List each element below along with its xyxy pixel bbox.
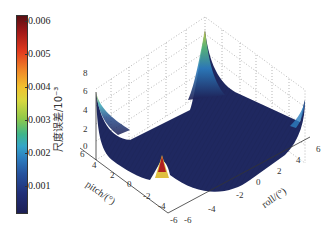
pitch-tick: 2 [110, 171, 115, 180]
z-tick: 2 [83, 125, 88, 134]
roll-tick: 6 [316, 145, 321, 154]
z-tick: 8 [83, 69, 88, 78]
roll-tick: 4 [296, 156, 301, 165]
roll-tick: 2 [277, 167, 282, 176]
pitch-tick: -6 [170, 216, 178, 225]
z-tick: 6 [83, 87, 88, 96]
pitch-tick: -2 [143, 192, 151, 201]
z-tick: 4 [83, 106, 88, 115]
pitch-tick: -4 [158, 202, 166, 211]
roll-tick: -6 [184, 216, 192, 225]
roll-tick: 0 [256, 178, 261, 187]
pitch-tick: 0 [127, 180, 132, 189]
z-axis-label: 尺度误差/10⁻³ [50, 87, 65, 152]
roll-tick: -4 [208, 205, 216, 214]
pitch-tick: 4 [92, 161, 97, 170]
roll-tick: -2 [236, 191, 244, 200]
pitch-tick: 6 [80, 150, 85, 159]
